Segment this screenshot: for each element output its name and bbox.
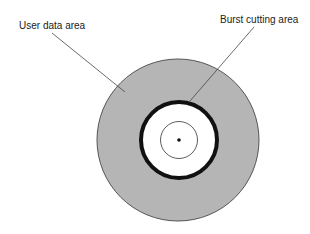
user-data-area-label: User data area: [19, 20, 85, 32]
disc-diagram: [0, 0, 310, 234]
burst-cutting-area-label: Burst cutting area: [220, 14, 298, 26]
center-hole-dot: [177, 138, 181, 142]
user-data-area-leader: [52, 33, 125, 92]
